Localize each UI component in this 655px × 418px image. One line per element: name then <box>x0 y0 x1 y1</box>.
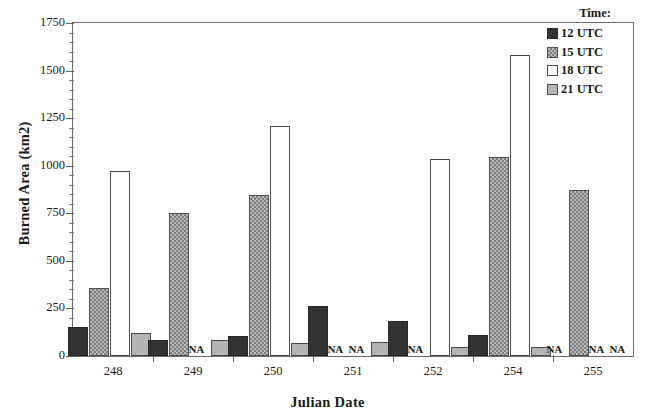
y-tick-major <box>66 118 74 119</box>
bar-254-15-utc <box>489 157 509 356</box>
y-tick-minor <box>69 232 74 233</box>
legend-item-21-utc: 21 UTC <box>547 82 643 97</box>
y-tick-minor <box>69 175 74 176</box>
legend-title: Time: <box>547 6 643 21</box>
y-tick-label: 1250 <box>5 110 65 125</box>
x-tick <box>153 355 154 362</box>
bar-248-15-utc <box>89 288 109 356</box>
y-tick-major <box>66 356 74 357</box>
y-tick-minor <box>69 109 74 110</box>
y-tick-minor <box>69 194 74 195</box>
na-label: NA <box>610 343 626 355</box>
x-tick-label: 255 <box>548 364 638 379</box>
x-tick <box>553 355 554 362</box>
bar-248-12-utc <box>68 327 88 356</box>
y-tick-label: 500 <box>5 253 65 268</box>
y-tick-major <box>66 23 74 24</box>
x-tick-label: 250 <box>228 364 318 379</box>
bar-254-18-utc <box>510 55 530 356</box>
y-tick-minor <box>69 90 74 91</box>
legend-label-21-utc: 21 UTC <box>561 82 603 97</box>
bar-252-12-utc <box>388 321 408 356</box>
y-tick-major <box>66 213 74 214</box>
y-tick-major <box>66 166 74 167</box>
legend-swatch-12-utc-icon <box>547 28 558 39</box>
na-label: NA <box>589 343 605 355</box>
x-axis-title: Julian Date <box>0 394 655 411</box>
bar-250-18-utc <box>270 126 290 356</box>
x-tick-label: 248 <box>68 364 158 379</box>
y-tick-minor <box>69 270 74 271</box>
bar-249-12-utc <box>148 340 168 356</box>
y-tick-minor <box>69 61 74 62</box>
y-tick-label: 750 <box>5 205 65 220</box>
x-tick-label: 254 <box>468 364 558 379</box>
legend-label-12-utc: 12 UTC <box>561 26 603 41</box>
y-tick-minor <box>69 80 74 81</box>
legend-label-15-utc: 15 UTC <box>561 45 603 60</box>
legend-item-18-utc: 18 UTC <box>547 63 643 78</box>
y-tick-minor <box>69 52 74 53</box>
bar-251-12-utc <box>308 306 328 356</box>
y-tick-label: 250 <box>5 300 65 315</box>
y-tick-label: 0 <box>5 348 65 363</box>
legend-label-18-utc: 18 UTC <box>561 63 603 78</box>
legend: Time: 12 UTC 15 UTC 18 UTC 21 UTC <box>547 6 643 100</box>
y-tick-minor <box>69 299 74 300</box>
y-tick-minor <box>69 223 74 224</box>
na-label: NA <box>547 343 563 355</box>
x-tick <box>313 355 314 362</box>
x-tick-label: 252 <box>388 364 478 379</box>
chart-figure: Burned Area (km2) Julian Date 0250500750… <box>0 0 655 418</box>
y-tick-minor <box>69 156 74 157</box>
y-tick-minor <box>69 318 74 319</box>
bar-249-15-utc <box>169 213 189 356</box>
y-tick-minor <box>69 42 74 43</box>
y-tick-minor <box>69 33 74 34</box>
y-tick-minor <box>69 289 74 290</box>
legend-swatch-15-utc-icon <box>547 47 558 58</box>
y-tick-minor <box>69 128 74 129</box>
y-tick-minor <box>69 137 74 138</box>
bar-252-18-utc <box>430 159 450 356</box>
legend-swatch-21-utc-icon <box>547 84 558 95</box>
y-tick-label: 1500 <box>5 63 65 78</box>
y-tick-minor <box>69 242 74 243</box>
na-label: NA <box>189 343 205 355</box>
y-tick-minor <box>69 147 74 148</box>
y-tick-minor <box>69 185 74 186</box>
bar-248-18-utc <box>110 171 130 356</box>
x-tick <box>473 355 474 362</box>
bar-254-12-utc <box>468 335 488 356</box>
bar-255-15-utc <box>569 190 589 357</box>
y-tick-major <box>66 308 74 309</box>
y-tick-minor <box>69 280 74 281</box>
legend-item-12-utc: 12 UTC <box>547 26 643 41</box>
y-tick-major <box>66 261 74 262</box>
y-tick-major <box>66 71 74 72</box>
na-label: NA <box>328 343 344 355</box>
x-tick <box>233 355 234 362</box>
bar-250-15-utc <box>249 195 269 356</box>
y-tick-label: 1000 <box>5 158 65 173</box>
x-tick-label: 251 <box>308 364 398 379</box>
x-tick <box>393 355 394 362</box>
y-tick-minor <box>69 251 74 252</box>
na-label: NA <box>408 343 424 355</box>
legend-swatch-18-utc-icon <box>547 65 558 76</box>
y-tick-minor <box>69 204 74 205</box>
na-label: NA <box>349 343 365 355</box>
legend-item-15-utc: 15 UTC <box>547 45 643 60</box>
y-tick-label: 1750 <box>5 15 65 30</box>
bar-250-12-utc <box>228 336 248 356</box>
x-tick-label: 249 <box>148 364 238 379</box>
y-tick-minor <box>69 99 74 100</box>
